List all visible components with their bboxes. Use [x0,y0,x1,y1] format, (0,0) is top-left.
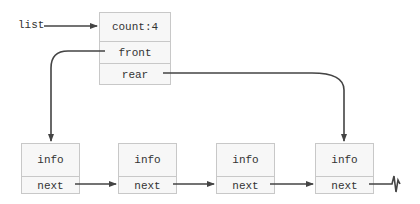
rear-arrow [163,73,344,141]
connector-arrows [0,0,420,204]
front-arrow [51,51,105,141]
null-terminator-icon [369,176,400,192]
